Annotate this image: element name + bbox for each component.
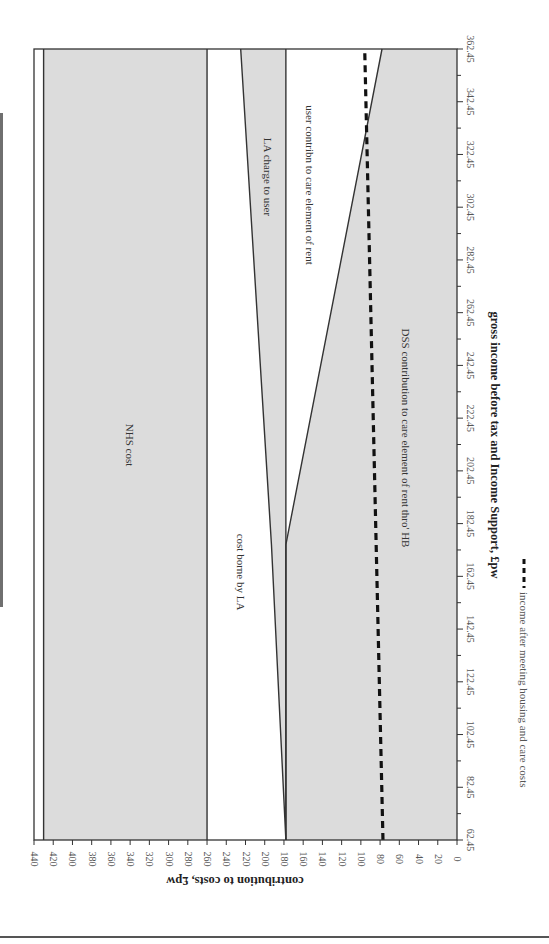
y-tick-label: 320 <box>144 852 155 867</box>
y-tick-label: 440 <box>29 852 40 867</box>
y-tick-label: 300 <box>164 852 175 867</box>
y-tick-label: 360 <box>106 852 117 867</box>
x-tick-label: 82.45 <box>465 776 476 799</box>
band-label-user-contribn: user contribn to care element of rent <box>304 105 316 264</box>
y-tick-label: 180 <box>279 852 290 867</box>
x-tick-label: 122.45 <box>465 668 476 696</box>
x-tick-label: 302.45 <box>465 193 476 221</box>
y-tick-label: 140 <box>317 852 328 867</box>
y-tick-label: 160 <box>298 852 309 867</box>
band-label-nhs: NHS cost <box>124 424 136 466</box>
x-tick-label: 242.45 <box>465 352 476 380</box>
y-tick-label: 60 <box>394 854 405 864</box>
x-axis-title: gross income before tax and Income Suppo… <box>488 312 502 579</box>
x-tick-label: 202.45 <box>465 457 476 485</box>
y-axis-ticks: 0204060801001201401601802002202402602803… <box>29 840 463 867</box>
band-label-la-charge: LA charge to user <box>262 138 274 217</box>
y-tick-label: 380 <box>87 852 98 867</box>
x-tick-label: 162.45 <box>465 563 476 591</box>
y-tick-label: 280 <box>183 852 194 867</box>
y-tick-label: 340 <box>125 852 136 867</box>
y-tick-label: 120 <box>337 852 348 867</box>
y-axis-title: contribution to costs, £pw <box>166 874 304 888</box>
y-tick-label: 40 <box>414 854 425 864</box>
area-bands <box>44 49 457 840</box>
y-tick-label: 100 <box>356 852 367 867</box>
y-tick-label: 0 <box>452 857 463 862</box>
legend: income after meeting housing and care co… <box>518 559 530 788</box>
x-tick-label: 342.45 <box>465 88 476 116</box>
x-tick-label: 62.45 <box>465 829 476 852</box>
y-tick-label: 240 <box>221 852 232 867</box>
x-tick-label: 322.45 <box>465 141 476 169</box>
legend-label: income after meeting housing and care co… <box>518 592 530 788</box>
y-tick-label: 200 <box>260 852 271 867</box>
y-tick-label: 260 <box>202 852 213 867</box>
chart-figure: 62.4582.45102.45122.45142.45162.45182.45… <box>0 0 549 944</box>
y-tick-label: 20 <box>433 854 444 864</box>
x-tick-label: 182.45 <box>465 510 476 538</box>
y-tick-label: 220 <box>241 852 252 867</box>
x-tick-label: 282.45 <box>465 246 476 274</box>
x-tick-label: 262.45 <box>465 299 476 327</box>
x-tick-label: 222.45 <box>465 404 476 432</box>
x-tick-label: 362.45 <box>465 35 476 63</box>
page-side-bar <box>0 113 3 607</box>
y-tick-label: 80 <box>375 854 386 864</box>
band-label-cost-borne-by-la: cost borne by LA <box>235 534 247 611</box>
y-tick-label: 420 <box>48 852 59 867</box>
x-tick-label: 142.45 <box>465 615 476 643</box>
band-label-dss: DSS contribution to care element of rent… <box>400 329 412 548</box>
x-axis-ticks: 62.4582.45102.45122.45142.45162.45182.45… <box>457 35 476 851</box>
y-tick-label: 400 <box>67 852 78 867</box>
x-tick-label: 102.45 <box>465 721 476 749</box>
